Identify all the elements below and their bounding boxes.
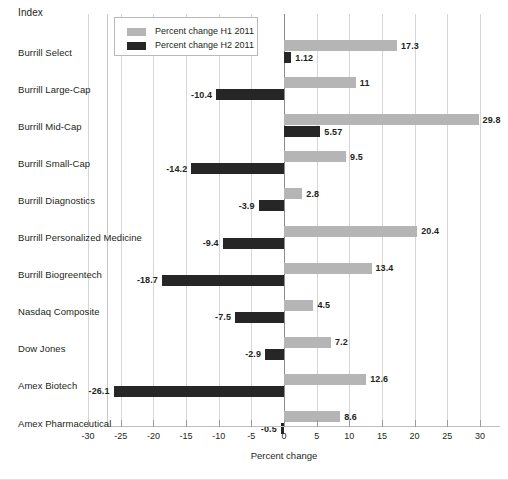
bar-value-label: 1.12 bbox=[295, 53, 313, 63]
bar-value-label: 13.4 bbox=[376, 263, 394, 273]
legend-label-h1: Percent change H1 2011 bbox=[155, 27, 254, 36]
gridline bbox=[382, 14, 383, 426]
category-label: Burrill Large-Cap bbox=[18, 83, 91, 94]
bar-h2-2011 bbox=[114, 386, 284, 397]
bar-h1-2011 bbox=[284, 151, 346, 162]
legend: Percent change H1 2011 Percent change H2… bbox=[114, 17, 258, 56]
bar-value-label: -9.4 bbox=[203, 238, 219, 248]
bar-h1-2011 bbox=[284, 114, 479, 125]
gridline bbox=[153, 14, 154, 426]
x-tick-label: 15 bbox=[377, 431, 387, 441]
x-tick bbox=[382, 420, 383, 427]
category-label: Burrill Mid-Cap bbox=[18, 120, 82, 131]
bar-h2-2011 bbox=[191, 163, 284, 174]
x-tick bbox=[480, 420, 481, 427]
bar-value-label: 5.57 bbox=[324, 127, 342, 137]
bar-h1-2011 bbox=[284, 188, 302, 199]
bar-h1-2011 bbox=[284, 337, 331, 348]
bar-value-label: -18.7 bbox=[137, 275, 158, 285]
x-tick bbox=[349, 420, 350, 427]
bar-h2-2011 bbox=[216, 89, 284, 100]
bar-value-label: -10.4 bbox=[191, 90, 212, 100]
bar-h2-2011 bbox=[223, 238, 284, 249]
bar-value-label: 4.5 bbox=[317, 300, 330, 310]
category-label: Burrill Select bbox=[18, 46, 72, 57]
gridline bbox=[88, 14, 89, 426]
x-tick bbox=[121, 420, 122, 427]
category-label: Nasdaq Composite bbox=[18, 306, 100, 317]
category-label: Burrill Biogreentech bbox=[18, 269, 102, 280]
x-tick-label: 5 bbox=[314, 431, 319, 441]
bar-h2-2011 bbox=[259, 200, 284, 211]
bar-h2-2011 bbox=[265, 349, 284, 360]
bar-value-label: -0.5 bbox=[261, 424, 277, 434]
bar-h2-2011 bbox=[284, 126, 320, 137]
gridline bbox=[480, 14, 481, 426]
bar-value-label: 20.4 bbox=[421, 226, 439, 236]
x-tick bbox=[317, 420, 318, 427]
bar-value-label: 8.6 bbox=[344, 412, 357, 422]
bar-value-label: -7.5 bbox=[215, 312, 231, 322]
zero-axis-line bbox=[284, 14, 285, 426]
x-tick-label: 20 bbox=[410, 431, 420, 441]
x-tick-label: -10 bbox=[212, 431, 225, 441]
bar-h2-2011 bbox=[162, 275, 284, 286]
x-tick-label: -15 bbox=[180, 431, 193, 441]
x-tick-label: 10 bbox=[344, 431, 354, 441]
x-tick-label: 0 bbox=[281, 431, 286, 441]
bar-h1-2011 bbox=[284, 263, 372, 274]
gridline bbox=[349, 14, 350, 426]
legend-swatch-h2 bbox=[127, 42, 146, 50]
gridline bbox=[447, 14, 448, 426]
legend-label-h2: Percent change H2 2011 bbox=[155, 41, 254, 50]
plot-area: 17.31129.89.52.820.413.44.57.212.68.61.1… bbox=[107, 14, 500, 426]
bar-h1-2011 bbox=[284, 226, 417, 237]
bar-h2-2011 bbox=[235, 312, 284, 323]
legend-swatch-h1 bbox=[127, 28, 146, 36]
x-axis-line bbox=[107, 426, 500, 427]
gridline bbox=[251, 14, 252, 426]
bar-value-label: 17.3 bbox=[401, 41, 419, 51]
x-tick-label: -25 bbox=[114, 431, 127, 441]
x-tick bbox=[153, 420, 154, 427]
x-tick-label: 30 bbox=[475, 431, 485, 441]
bar-value-label: 12.6 bbox=[370, 374, 388, 384]
bar-value-label: 11 bbox=[360, 78, 370, 88]
category-label: Burrill Diagnostics bbox=[18, 194, 95, 205]
bar-value-label: -2.9 bbox=[245, 349, 261, 359]
x-tick bbox=[219, 420, 220, 427]
legend-item-h1: Percent change H1 2011 bbox=[127, 27, 254, 36]
bar-value-label: -14.2 bbox=[166, 164, 187, 174]
x-axis-title: Percent change bbox=[251, 450, 318, 461]
x-tick bbox=[284, 420, 285, 427]
x-tick-label: -5 bbox=[247, 431, 255, 441]
bar-h1-2011 bbox=[284, 300, 313, 311]
bar-value-label: 9.5 bbox=[350, 152, 363, 162]
x-tick-label: -20 bbox=[147, 431, 160, 441]
bar-value-label: 29.8 bbox=[483, 115, 501, 125]
legend-item-h2: Percent change H2 2011 bbox=[127, 41, 254, 50]
index-column-header: Index bbox=[18, 7, 43, 18]
x-tick bbox=[251, 420, 252, 427]
bar-value-label: 2.8 bbox=[306, 189, 319, 199]
x-tick bbox=[88, 420, 89, 427]
bar-h1-2011 bbox=[284, 40, 397, 51]
bar-value-label: 7.2 bbox=[335, 337, 348, 347]
bar-h1-2011 bbox=[284, 77, 356, 88]
gridline bbox=[121, 14, 122, 426]
x-tick-label: -30 bbox=[82, 431, 95, 441]
gridline bbox=[186, 14, 187, 426]
x-tick-label: 25 bbox=[442, 431, 452, 441]
chart-page: Index 17.31129.89.52.820.413.44.57.212.6… bbox=[0, 0, 508, 480]
gridline bbox=[317, 14, 318, 426]
x-tick bbox=[415, 420, 416, 427]
bar-h1-2011 bbox=[284, 374, 366, 385]
x-tick bbox=[186, 420, 187, 427]
category-label: Burrill Small-Cap bbox=[18, 157, 90, 168]
category-label: Burrill Personalized Medicine bbox=[18, 232, 142, 243]
bar-value-label: -26.1 bbox=[89, 386, 110, 396]
category-label: Dow Jones bbox=[18, 343, 65, 354]
gridline bbox=[415, 14, 416, 426]
category-label: Amex Pharmaceutical bbox=[18, 417, 111, 428]
category-label: Amex Biotech bbox=[18, 380, 77, 391]
